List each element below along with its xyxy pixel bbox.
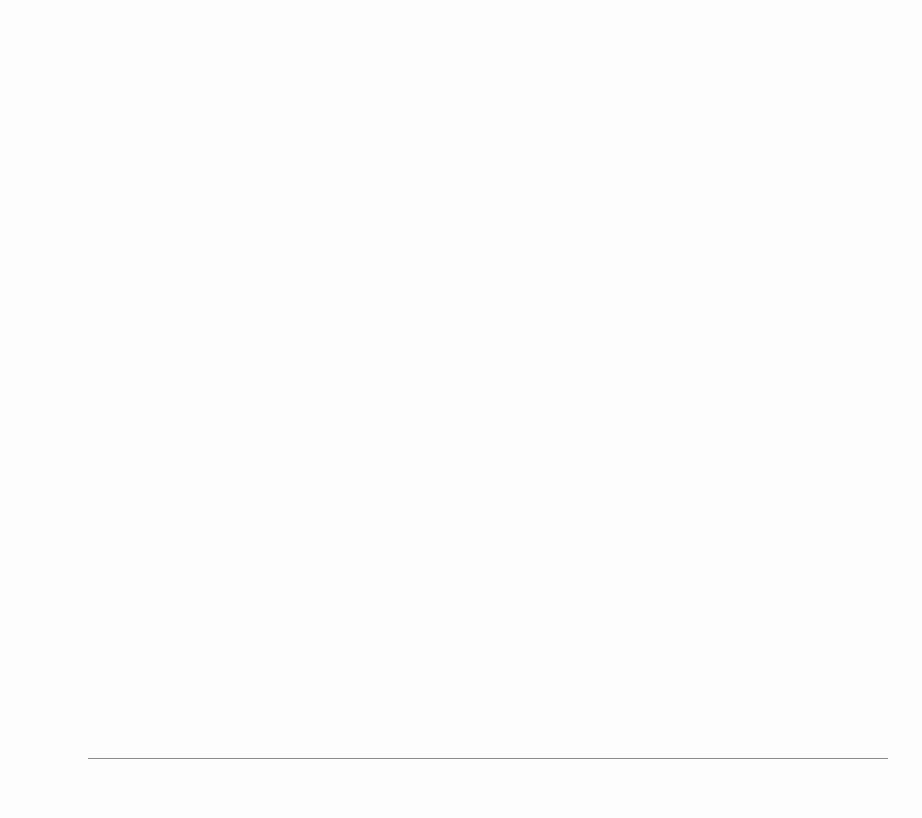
bar-chart xyxy=(0,0,922,818)
plot-area xyxy=(88,36,888,758)
x-axis-line xyxy=(88,758,888,759)
y-axis-labels xyxy=(0,36,84,758)
bar-rows xyxy=(88,36,888,758)
